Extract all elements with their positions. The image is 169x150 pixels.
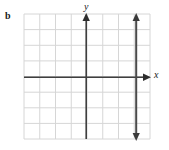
- y-axis-label: y: [84, 2, 88, 12]
- plotted-line-arrowhead-bottom-icon: [133, 133, 140, 141]
- y-axis: [83, 13, 90, 139]
- x-axis-label: x: [154, 70, 158, 80]
- graph-figure: b y x: [0, 0, 169, 150]
- part-label-b: b: [5, 11, 11, 21]
- coordinate-plane-svg: [0, 0, 169, 150]
